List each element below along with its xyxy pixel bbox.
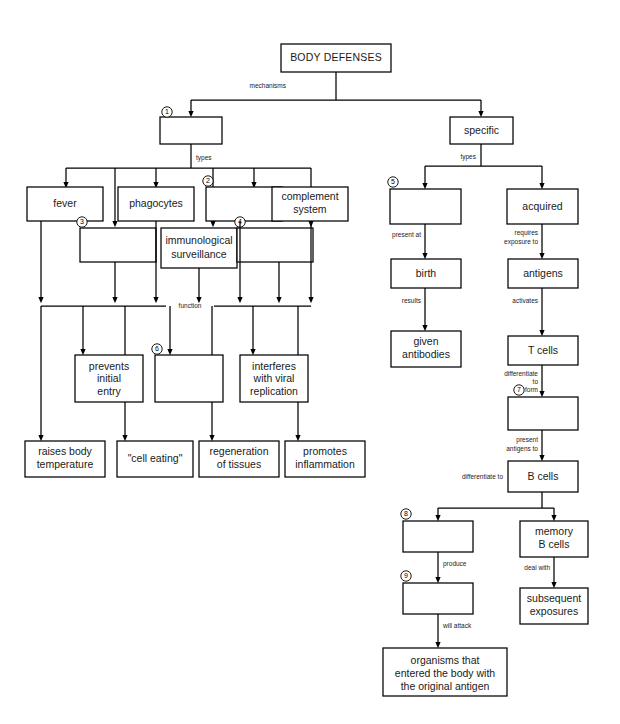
label-organisms-line1: organisms that (411, 654, 480, 666)
box-blank-4[interactable] (237, 228, 313, 262)
label-immuno-line2: surveillance (171, 248, 227, 260)
edge-label-activates: activates (512, 297, 538, 304)
flowchart-svg: BODY DEFENSES mechanisms 1 types fever p… (0, 0, 620, 724)
number-label-5: 5 (391, 178, 395, 185)
label-body-defenses: BODY DEFENSES (290, 51, 382, 63)
number-label-9: 9 (404, 572, 408, 579)
node-blank-4[interactable]: 4 (235, 217, 313, 262)
box-blank-8[interactable] (403, 521, 473, 552)
edge-label-differentiate-3: form (525, 386, 538, 393)
edge-label-requires-1: requires (515, 229, 539, 237)
label-prevents-line1: prevents (89, 360, 129, 372)
node-body-defenses: BODY DEFENSES (281, 44, 391, 72)
node-blank-7[interactable]: 7 (508, 385, 578, 430)
node-fever: fever (27, 187, 103, 221)
label-raises-line1: raises body (38, 445, 92, 457)
label-organisms-line2: entered the body with (395, 667, 496, 679)
label-organisms-line3: the original antigen (401, 680, 490, 692)
number-label-6: 6 (155, 345, 159, 352)
node-blank-8[interactable]: 8 (401, 509, 473, 552)
label-memory-line1: memory (535, 525, 574, 537)
label-phagocytes: phagocytes (129, 197, 183, 209)
edge-label-differentiate-2: to (533, 378, 539, 385)
label-interferes-line2: with viral (253, 372, 295, 384)
node-subsequent-exposures: subsequent exposures (520, 588, 588, 624)
box-blank-5[interactable] (390, 189, 461, 224)
node-b-cells: B cells (508, 461, 578, 492)
label-b-cells: B cells (528, 470, 559, 482)
concept-map-diagram: BODY DEFENSES mechanisms 1 types fever p… (0, 0, 620, 724)
label-interferes-line3: replication (250, 385, 298, 397)
edge-label-will-attack: will attack (442, 622, 472, 629)
node-memory-b-cells: memory B cells (520, 521, 588, 557)
node-specific: specific (450, 117, 513, 144)
label-prevents-line3: entry (97, 385, 121, 397)
box-blank-3[interactable] (80, 228, 156, 262)
label-complement-system-line2: system (293, 203, 327, 215)
node-interferes-viral-replication: interferes with viral replication (240, 355, 308, 402)
node-phagocytes: phagocytes (118, 187, 194, 221)
node-organisms-entered-body: organisms that entered the body with the… (383, 648, 507, 696)
label-subsequent-line2: exposures (530, 605, 578, 617)
node-blank-3[interactable]: 3 (77, 217, 156, 262)
edge-label-differentiate-to: differentiate to (462, 473, 503, 480)
edge-label-function: function (179, 302, 202, 309)
edge-label-differentiate-1: differentiate (504, 370, 538, 377)
node-promotes-inflammation: promotes inflammation (285, 441, 365, 477)
label-fever: fever (53, 197, 77, 209)
label-complement-system-line1: complement (281, 190, 338, 202)
label-cell-eating: "cell eating" (128, 452, 183, 464)
edge-label-mechanisms: mechanisms (250, 82, 287, 89)
node-complement-system: complement system (272, 187, 348, 221)
edge-label-requires-2: exposure to (504, 238, 538, 246)
label-specific: specific (464, 124, 499, 136)
label-promotes-line2: inflammation (295, 458, 355, 470)
label-promotes-line1: promotes (303, 445, 347, 457)
number-label-8: 8 (404, 510, 408, 517)
node-birth: birth (391, 259, 461, 288)
edge-label-types-right: types (460, 153, 476, 161)
label-regeneration-line1: regeneration (210, 445, 269, 457)
box-blank-6[interactable] (155, 355, 223, 402)
edge-label-deal-with: deal with (524, 564, 550, 571)
node-regeneration-of-tissues: regeneration of tissues (199, 441, 279, 477)
label-t-cells: T cells (528, 344, 558, 356)
number-label-1: 1 (165, 108, 169, 115)
number-label-2: 2 (206, 177, 210, 184)
label-raises-line2: temperature (37, 458, 94, 470)
label-given-line1: given (413, 335, 438, 347)
node-cell-eating: "cell eating" (117, 441, 193, 477)
label-subsequent-line1: subsequent (527, 592, 581, 604)
node-t-cells: T cells (508, 336, 578, 365)
node-immunological-surveillance: immunological surveillance (161, 228, 237, 268)
number-label-7: 7 (517, 386, 521, 393)
number-label-3: 3 (80, 218, 84, 225)
edge-label-present-at: present at (392, 231, 421, 239)
label-acquired: acquired (522, 200, 562, 212)
label-antigens: antigens (523, 267, 563, 279)
edge-label-results: results (402, 297, 422, 304)
node-blank-9[interactable]: 9 (401, 571, 473, 614)
box-blank-2[interactable] (206, 187, 282, 221)
label-memory-line2: B cells (539, 538, 570, 550)
edge-label-types-left: types (196, 154, 212, 162)
node-blank-2[interactable]: 2 (203, 176, 282, 221)
label-prevents-line2: initial (97, 372, 121, 384)
box-blank-9[interactable] (403, 583, 473, 614)
node-antigens: antigens (508, 259, 578, 288)
edge-label-produce: produce (443, 560, 467, 568)
node-acquired: acquired (507, 189, 578, 224)
box-blank-1[interactable] (160, 117, 222, 144)
label-immuno-line1: immunological (165, 234, 232, 246)
label-interferes-line1: interferes (252, 360, 296, 372)
node-prevents-initial-entry: prevents initial entry (75, 355, 143, 402)
node-given-antibodies: given antibodies (391, 331, 461, 367)
node-raises-body-temperature: raises body temperature (25, 441, 105, 477)
label-given-line2: antibodies (402, 348, 450, 360)
label-birth: birth (416, 267, 437, 279)
box-blank-7[interactable] (508, 397, 578, 430)
edge-label-present-antigens-2: antigens to (506, 445, 538, 453)
label-regeneration-line2: of tissues (217, 458, 261, 470)
edge-label-present-antigens-1: present (516, 436, 538, 444)
